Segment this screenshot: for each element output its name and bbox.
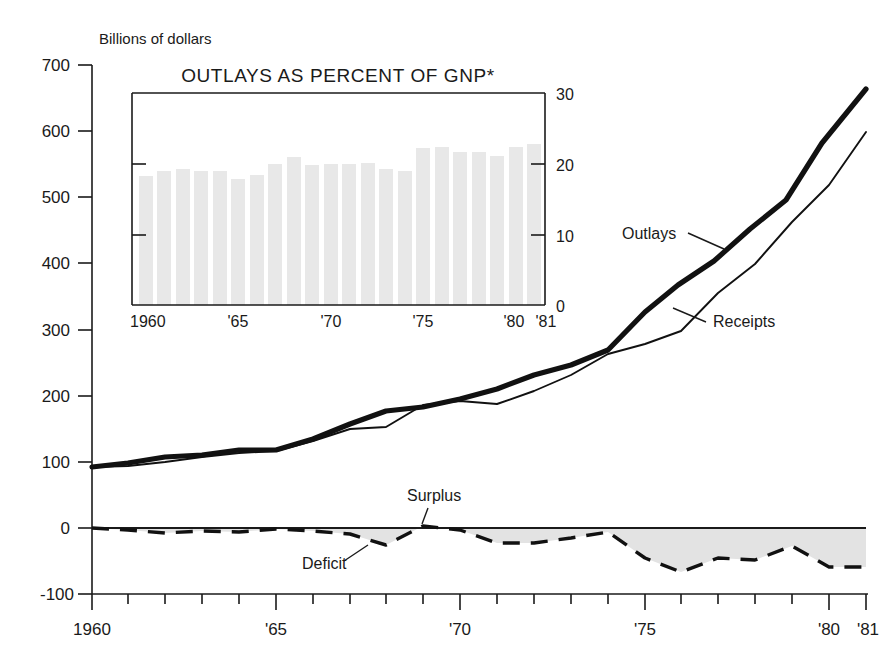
inset-bar (139, 176, 153, 305)
inset-bar (416, 148, 430, 305)
inset-bar (527, 144, 541, 305)
inset-y-tick-0: 0 (556, 298, 565, 315)
inset-x-tick-1960: 1960 (130, 313, 166, 330)
inset-chart: OUTLAYS AS PERCENT OF GNP* (130, 65, 574, 330)
x-tick-1960: 1960 (73, 620, 111, 639)
budget-chart-svg: Billions of dollars 700 600 500 400 300 … (0, 0, 895, 670)
outlays-label: Outlays (622, 225, 676, 242)
y-tick-500: 500 (42, 188, 70, 207)
y-tick-neg100: -100 (40, 585, 74, 604)
inset-bar (157, 171, 171, 305)
y-tick-100: 100 (42, 453, 70, 472)
inset-x-tick-81: '81 (536, 313, 557, 330)
inset-bar (305, 165, 319, 305)
inset-bar (398, 171, 412, 305)
inset-bar (194, 171, 208, 305)
y-tick-400: 400 (42, 254, 70, 273)
inset-bar (176, 169, 190, 305)
inset-bar (213, 171, 227, 305)
inset-bar (453, 152, 467, 305)
inset-bar (435, 147, 449, 305)
y-tick-300: 300 (42, 321, 70, 340)
y-axis-title: Billions of dollars (99, 30, 212, 47)
inset-bar (287, 157, 301, 305)
y-tick-700: 700 (42, 56, 70, 75)
receipts-label: Receipts (713, 313, 775, 330)
inset-x-tick-70: '70 (321, 313, 342, 330)
x-tick-75: '75 (634, 620, 656, 639)
inset-x-tick-75: '75 (413, 313, 434, 330)
inset-bar (231, 179, 245, 305)
y-tick-0: 0 (61, 519, 70, 538)
inset-bar (342, 164, 356, 305)
inset-title: OUTLAYS AS PERCENT OF GNP* (181, 65, 495, 86)
inset-y-tick-10: 10 (556, 228, 574, 245)
inset-bar (250, 175, 264, 305)
inset-y-tick-30: 30 (556, 86, 574, 103)
figure-root: Billions of dollars 700 600 500 400 300 … (0, 0, 895, 670)
inset-bar (490, 156, 504, 305)
x-tick-81: '81 (857, 620, 879, 639)
surplus-label: Surplus (407, 487, 461, 504)
y-tick-200: 200 (42, 387, 70, 406)
x-tick-80: '80 (818, 620, 840, 639)
inset-bar (472, 152, 486, 305)
inset-bar (268, 164, 282, 305)
y-tick-600: 600 (42, 122, 70, 141)
inset-bar (324, 164, 338, 305)
inset-x-tick-80: '80 (504, 313, 525, 330)
inset-bar (361, 163, 375, 305)
inset-bar (379, 169, 393, 305)
inset-y-tick-20: 20 (556, 157, 574, 174)
deficit-label: Deficit (302, 555, 347, 572)
inset-bar (509, 147, 523, 305)
inset-x-tick-65: '65 (228, 313, 249, 330)
x-tick-65: '65 (265, 620, 287, 639)
x-tick-70: '70 (449, 620, 471, 639)
